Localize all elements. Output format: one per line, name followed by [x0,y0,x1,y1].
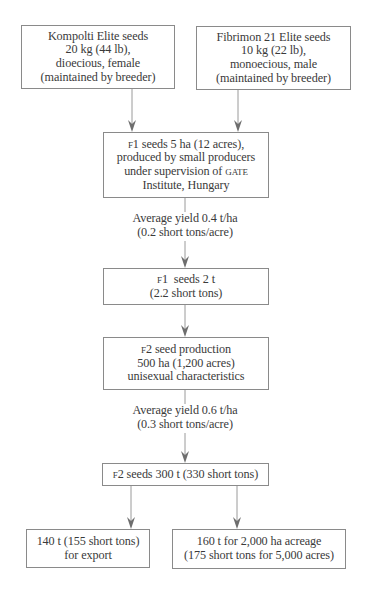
node-f1-seed-production: F1 seeds 5 ha (12 acres), produced by sm… [103,132,269,198]
node-text-line: produced by small producers [117,151,255,165]
node-text-line: 500 ha (1,200 acres) [137,357,235,371]
node-text-line: (maintained by breeder) [41,71,156,85]
node-text-line: monoecious, male [230,58,317,72]
label-text-line: Average yield 0.4 t/ha [110,212,260,226]
node-text-line: unisexual characteristics [128,370,245,384]
node-text-line: F1 seeds 2 t [157,273,215,287]
node-text-line: Institute, Hungary [143,179,230,193]
node-acreage: 160 t for 2,000 ha acreage (175 short to… [172,529,346,569]
label-text-line: (0.3 short tons/acre) [110,418,260,432]
node-text-line: dioecious, female [56,57,140,71]
gate-acronym: GATE [225,164,248,178]
generation-prefix: F1 [157,272,168,286]
node-text-line: Kompolti Elite seeds [48,30,148,44]
generation-prefix: F1 [128,137,139,151]
node-text-line: F1 seeds 5 ha (12 acres), [128,138,244,152]
node-f1-seeds: F1 seeds 2 t (2.2 short tons) [103,268,269,305]
node-text-line: for export [64,549,111,563]
edge-label-yield-2: Average yield 0.6 t/ha (0.3 short tons/a… [110,404,260,431]
node-text-line: Fibrimon 21 Elite seeds [217,31,331,45]
node-text-line: 140 t (155 short tons) [37,535,140,549]
label-text-line: (0.2 short tons/acre) [110,226,260,240]
node-kompolti-elite-seeds: Kompolti Elite seeds 20 kg (44 lb), dioe… [21,25,175,89]
label-text-line: Average yield 0.6 t/ha [110,404,260,418]
node-text-line: 20 kg (44 lb), [66,43,131,57]
node-text-line: F2 seed production [141,343,231,357]
node-text-line: under supervision of GATE [124,165,248,179]
node-text-line: 10 kg (22 lb), [241,44,306,58]
node-f2-seeds: F2 seeds 300 t (330 short tons) [102,463,269,486]
node-text-line: F2 seeds 300 t (330 short tons) [113,468,258,482]
edge-label-yield-1: Average yield 0.4 t/ha (0.2 short tons/a… [110,212,260,239]
node-text-line: (maintained by breeder) [216,72,331,86]
node-text-line: 160 t for 2,000 ha acreage [197,535,322,549]
generation-prefix: F2 [141,342,152,356]
node-fibrimon-elite-seeds: Fibrimon 21 Elite seeds 10 kg (22 lb), m… [196,26,351,90]
node-text-line: (2.2 short tons) [150,287,223,301]
node-export: 140 t (155 short tons) for export [26,529,150,568]
node-text-line: (175 short tons for 5,000 acres) [184,549,334,563]
node-f2-seed-production: F2 seed production 500 ha (1,200 acres) … [103,337,269,390]
generation-prefix: F2 [113,467,124,481]
